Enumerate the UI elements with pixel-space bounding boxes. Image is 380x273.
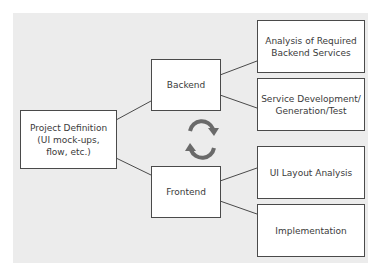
cycle-arrows-icon bbox=[190, 121, 214, 157]
project-definition-label: Project Definition (UI mock-ups, flow, e… bbox=[30, 122, 107, 158]
edge-backend-service bbox=[220, 95, 257, 108]
frontend-label: Frontend bbox=[166, 186, 206, 198]
backend-box: Backend bbox=[151, 59, 221, 111]
edge-frontend-implementation bbox=[220, 201, 257, 214]
implementation-box: Implementation bbox=[257, 204, 365, 257]
edge-backend-analysis bbox=[220, 61, 257, 75]
service-development-label: Service Development/ Generation/Test bbox=[261, 93, 361, 117]
edge-root-backend bbox=[116, 101, 151, 120]
ui-layout-analysis-label: UI Layout Analysis bbox=[270, 167, 353, 179]
project-definition-box: Project Definition (UI mock-ups, flow, e… bbox=[20, 110, 117, 169]
frontend-box: Frontend bbox=[151, 166, 221, 218]
analysis-backend-services-box: Analysis of Required Backend Services bbox=[257, 20, 365, 73]
ui-layout-analysis-box: UI Layout Analysis bbox=[257, 146, 365, 199]
cycle-arrowhead-bottom bbox=[185, 143, 196, 151]
service-development-box: Service Development/ Generation/Test bbox=[257, 78, 365, 131]
cycle-arrowhead-top bbox=[208, 128, 219, 136]
implementation-label: Implementation bbox=[275, 225, 346, 237]
edge-root-frontend bbox=[116, 158, 151, 175]
analysis-backend-services-label: Analysis of Required Backend Services bbox=[265, 35, 357, 59]
edge-frontend-uilayout bbox=[220, 168, 257, 181]
backend-label: Backend bbox=[167, 79, 205, 91]
